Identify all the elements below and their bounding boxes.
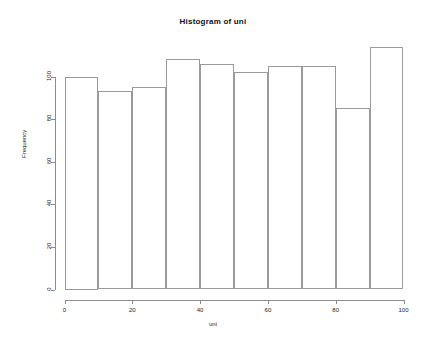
- x-axis-tick: [200, 300, 201, 304]
- histogram-bar: [65, 77, 99, 290]
- histogram-bar: [98, 91, 132, 289]
- histogram-bar: [336, 108, 370, 289]
- x-axis-tick: [132, 300, 133, 304]
- chart-title: Histogram of uni: [0, 17, 426, 26]
- x-axis-tick: [336, 300, 337, 304]
- histogram-bar: [200, 64, 234, 290]
- histogram-bar: [166, 59, 200, 289]
- x-axis-tick-label: 100: [398, 307, 408, 313]
- x-axis-tick: [268, 300, 269, 304]
- x-axis-tick-label: 20: [129, 307, 136, 313]
- y-axis-tick-label: 0: [46, 279, 52, 299]
- x-axis-line: [65, 300, 404, 301]
- x-axis-tick-label: 0: [63, 307, 66, 313]
- x-axis-label: uni: [0, 321, 426, 327]
- y-axis-line: [55, 77, 56, 290]
- y-axis-tick-label: 80: [46, 108, 52, 128]
- x-axis-tick: [404, 300, 405, 304]
- y-axis-tick-label: 100: [46, 66, 52, 86]
- histogram-bar: [268, 66, 302, 290]
- x-axis-tick-label: 40: [197, 307, 204, 313]
- y-axis-tick-label: 20: [46, 236, 52, 256]
- histogram-bar: [370, 47, 404, 290]
- histogram-plot: Histogram of uni Frequency uni 020406080…: [0, 0, 426, 349]
- histogram-bar: [234, 72, 268, 289]
- x-axis-tick-label: 60: [265, 307, 272, 313]
- y-axis-tick-label: 60: [46, 151, 52, 171]
- y-axis-label: Frequency: [21, 130, 27, 158]
- histogram-bar: [132, 87, 166, 289]
- histogram-bar: [302, 66, 336, 290]
- x-axis-tick-label: 80: [332, 307, 339, 313]
- y-axis-tick-label: 40: [46, 193, 52, 213]
- x-axis-tick: [65, 300, 66, 304]
